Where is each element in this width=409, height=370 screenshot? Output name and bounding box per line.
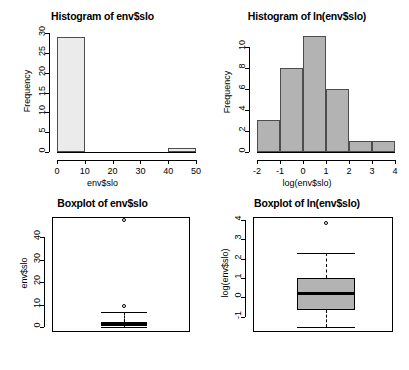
- panel-title: Histogram of ln(env$slo): [205, 10, 409, 22]
- outlier-point: [122, 218, 126, 222]
- y-tick-label: 40: [32, 220, 42, 250]
- whisker-cap-upper: [297, 253, 355, 254]
- whisker-cap-lower: [101, 327, 147, 328]
- plot-baseline: [257, 152, 395, 153]
- outlier-point: [324, 221, 328, 225]
- median-line: [101, 323, 147, 326]
- x-tick: [372, 160, 373, 164]
- panel-title: Boxplot of env$slo: [0, 197, 205, 209]
- x-tick: [303, 160, 304, 164]
- y-axis-line: [49, 33, 50, 152]
- x-tick: [280, 160, 281, 164]
- x-tick: [57, 160, 58, 164]
- median-line: [297, 292, 355, 295]
- outlier-point: [122, 304, 126, 308]
- whisker-cap-lower: [297, 327, 355, 328]
- histogram-bar: [372, 141, 395, 152]
- y-axis-label: Frequency: [22, 61, 32, 121]
- histogram-bar: [257, 120, 280, 152]
- y-tick-label: 4: [233, 203, 243, 233]
- panel-histogram-env-slo: Histogram of env$slo env$slo Frequency 0…: [0, 0, 205, 185]
- x-tick: [257, 160, 258, 164]
- plot-baseline: [57, 152, 196, 153]
- x-tick: [85, 160, 86, 164]
- histogram-bar: [349, 141, 372, 152]
- plot-frame: [253, 217, 393, 332]
- y-axis-line: [44, 237, 45, 327]
- y-axis-label: Frequency: [222, 62, 232, 122]
- y-axis-label: log(env$slo): [220, 233, 230, 313]
- x-tick: [168, 160, 169, 164]
- x-tick: [140, 160, 141, 164]
- panel-boxplot-env-slo: Boxplot of env$slo env$slo 010203040: [0, 185, 205, 370]
- x-tick: [113, 160, 114, 164]
- whisker-cap-upper: [101, 312, 147, 313]
- panel-histogram-log-env-slo: Histogram of ln(env$slo) log(env$slo) Fr…: [205, 0, 409, 185]
- histogram-bar: [303, 36, 326, 152]
- y-tick-label: 10: [237, 30, 247, 60]
- histogram-bar: [280, 68, 303, 152]
- histogram-bar: [326, 89, 349, 152]
- x-tick: [326, 160, 327, 164]
- whisker-upper: [326, 253, 327, 278]
- x-tick: [349, 160, 350, 164]
- plot-grid: Histogram of env$slo env$slo Frequency 0…: [0, 0, 409, 370]
- y-axis-line: [245, 220, 246, 317]
- whisker-upper: [124, 312, 125, 321]
- x-tick-label: 4: [375, 166, 409, 176]
- panel-boxplot-log-env-slo: Boxplot of ln(env$slo) log(env$slo) -101…: [205, 185, 409, 370]
- whisker-lower: [326, 310, 327, 327]
- histogram-bar: [57, 37, 85, 152]
- x-axis-line: [57, 160, 196, 161]
- x-tick: [196, 160, 197, 164]
- panel-title: Histogram of env$slo: [0, 10, 205, 22]
- y-axis-line: [249, 47, 250, 152]
- plot-frame: [52, 217, 190, 332]
- x-tick: [395, 160, 396, 164]
- y-tick-label: 30: [37, 16, 47, 46]
- y-axis-label: env$slo: [19, 233, 29, 313]
